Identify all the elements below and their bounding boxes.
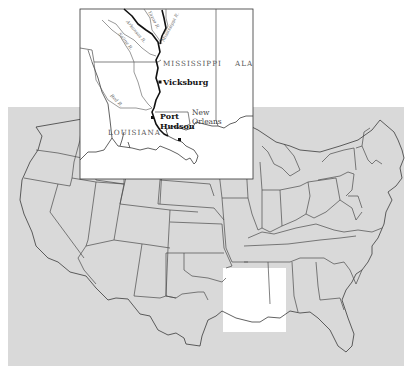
- new-orleans-marker: [178, 138, 181, 141]
- label-new-orleans-line2: Orleans: [192, 117, 222, 126]
- civil-war-mississippi-campaign-map: MISSISSIPPI LOUISIANA ALA Yazoo R. Arkan…: [0, 0, 412, 374]
- label-port-hudson-line1: Port: [160, 111, 179, 121]
- label-vicksburg: Vicksburg: [162, 77, 209, 87]
- label-mississippi: MISSISSIPPI: [163, 59, 222, 68]
- label-port-hudson-line2: Hudson: [160, 121, 195, 131]
- inset-map: MISSISSIPPI LOUISIANA ALA Yazoo R. Arkan…: [80, 9, 253, 179]
- label-alabama: ALA: [234, 59, 253, 68]
- label-louisiana: LOUISIANA: [108, 128, 161, 137]
- label-new-orleans-line1: New: [192, 108, 210, 117]
- port-hudson-marker: [151, 116, 154, 119]
- vicksburg-marker: [159, 81, 162, 84]
